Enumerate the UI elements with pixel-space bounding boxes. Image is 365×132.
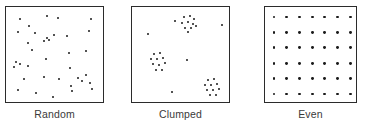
data-point [28, 25, 31, 28]
data-point-scattered [174, 20, 177, 23]
data-point-grid [336, 62, 339, 65]
data-point [52, 96, 55, 99]
data-point-grid [285, 77, 288, 80]
data-point-clustered [195, 25, 198, 28]
data-point-grid [298, 46, 301, 49]
panel-label-even: Even [264, 108, 357, 121]
data-point [77, 77, 80, 80]
data-point-grid [336, 77, 339, 80]
data-point [91, 88, 94, 91]
data-point-clustered [158, 64, 161, 67]
data-point-grid [273, 93, 276, 96]
data-point [53, 34, 56, 37]
data-point-grid [336, 46, 339, 49]
data-point-grid [298, 77, 301, 80]
data-point-scattered [221, 24, 224, 27]
data-point-grid [298, 93, 301, 96]
data-point [68, 52, 71, 55]
panel-random: Random [5, 0, 104, 132]
data-point-grid [336, 16, 339, 19]
data-point [35, 92, 38, 95]
data-point-clustered [210, 84, 213, 87]
data-point-clustered [159, 52, 162, 55]
data-point-grid [323, 93, 326, 96]
data-point-grid [273, 62, 276, 65]
plot-box-clumped [131, 6, 230, 103]
data-point-clustered [190, 27, 193, 30]
data-point-clustered [216, 83, 219, 86]
data-point-clustered [184, 27, 187, 30]
data-point [15, 61, 18, 64]
data-point-grid [349, 77, 352, 80]
panel-even: Even [264, 0, 357, 132]
data-point-clustered [218, 88, 221, 91]
data-point-grid [273, 77, 276, 80]
data-point-grid [285, 31, 288, 34]
data-point-scattered [186, 59, 189, 62]
data-point [85, 50, 88, 53]
data-point-clustered [207, 79, 210, 82]
data-point-grid [349, 16, 352, 19]
data-point-grid [349, 46, 352, 49]
dispersion-patterns-figure: Random Clumped Even [0, 0, 365, 132]
panel-clumped: Clumped [131, 0, 230, 132]
data-point-grid [311, 31, 314, 34]
data-point-scattered [171, 91, 174, 94]
data-point-grid [285, 46, 288, 49]
data-point [85, 74, 88, 77]
panel-label-random: Random [5, 108, 104, 121]
data-point [81, 80, 84, 83]
data-point-grid [273, 31, 276, 34]
data-point-grid [285, 93, 288, 96]
data-point-clustered [215, 94, 218, 97]
data-point-grid [311, 46, 314, 49]
data-point [34, 32, 37, 35]
data-point-grid [285, 62, 288, 65]
data-point [48, 39, 51, 42]
data-point-grid [285, 16, 288, 19]
data-point-clustered [187, 21, 190, 24]
data-point [13, 66, 16, 69]
data-point-grid [311, 93, 314, 96]
data-point-clustered [193, 18, 196, 21]
data-point-grid [336, 31, 339, 34]
data-point-clustered [161, 69, 164, 72]
data-point [66, 35, 69, 38]
data-point-clustered [189, 15, 192, 18]
data-point-clustered [155, 69, 158, 72]
data-point [71, 90, 74, 93]
data-point [23, 78, 26, 81]
data-point [19, 63, 22, 66]
data-point-clustered [209, 94, 212, 97]
data-point [43, 40, 46, 43]
data-point-clustered [162, 57, 165, 60]
data-point-clustered [204, 84, 207, 87]
data-point-grid [323, 62, 326, 65]
data-point [17, 89, 20, 92]
data-point-grid [323, 77, 326, 80]
data-point-grid [336, 93, 339, 96]
data-point-grid [311, 16, 314, 19]
data-point-clustered [183, 16, 186, 19]
data-point [88, 30, 91, 33]
data-point-clustered [212, 89, 215, 92]
data-point [58, 78, 61, 81]
data-point-grid [298, 16, 301, 19]
data-point-clustered [187, 31, 190, 34]
data-point [89, 82, 92, 85]
data-point [27, 65, 30, 68]
data-point-grid [323, 31, 326, 34]
data-point [27, 42, 30, 45]
data-point-grid [298, 31, 301, 34]
data-point-grid [311, 62, 314, 65]
data-point-grid [311, 77, 314, 80]
data-point [69, 67, 72, 70]
data-point-clustered [213, 78, 216, 81]
data-point-grid [273, 46, 276, 49]
data-point-clustered [150, 58, 153, 61]
plot-box-even [264, 6, 357, 103]
plot-box-random [5, 6, 104, 103]
data-point-clustered [152, 63, 155, 66]
data-point-clustered [206, 89, 209, 92]
data-point-grid [298, 62, 301, 65]
